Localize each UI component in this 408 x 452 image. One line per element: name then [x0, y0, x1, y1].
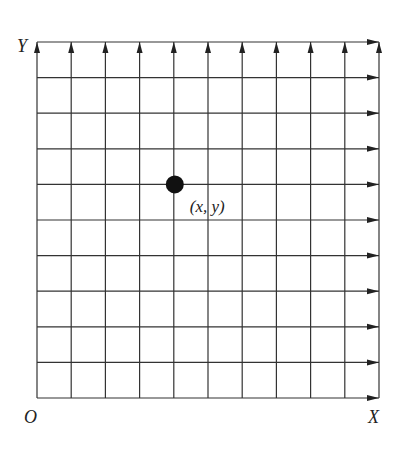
right-arrow-icon: [367, 217, 379, 223]
right-arrow-icon: [367, 324, 379, 330]
right-arrow-icon: [367, 359, 379, 365]
right-arrow-icon: [367, 39, 379, 45]
point-label: (x, y): [190, 197, 225, 216]
up-arrow-icon: [137, 42, 143, 53]
origin-label: O: [24, 407, 37, 427]
up-arrow-icon: [102, 42, 108, 53]
right-arrow-icon: [367, 75, 379, 81]
up-arrow-icon: [171, 42, 177, 53]
grid-lines: [37, 42, 379, 398]
right-arrow-icon: [367, 288, 379, 294]
up-arrow-icon: [205, 42, 211, 53]
up-arrow-icon: [239, 42, 245, 53]
up-arrow-icon: [376, 42, 382, 53]
y-axis-label: Y: [17, 36, 29, 56]
up-arrow-icon: [68, 42, 74, 53]
x-axis-label: X: [367, 407, 380, 427]
right-arrow-icon: [367, 395, 379, 401]
up-arrow-icon: [273, 42, 279, 53]
right-arrow-icon: [367, 146, 379, 152]
up-arrow-icon: [342, 42, 348, 53]
up-arrow-icon: [34, 42, 40, 53]
right-arrow-icon: [367, 181, 379, 187]
right-arrow-icon: [367, 253, 379, 259]
point-marker: [166, 175, 184, 193]
right-arrow-icon: [367, 110, 379, 116]
up-arrow-icon: [308, 42, 314, 53]
grid-diagram: (x, y) Y O X: [0, 0, 408, 452]
